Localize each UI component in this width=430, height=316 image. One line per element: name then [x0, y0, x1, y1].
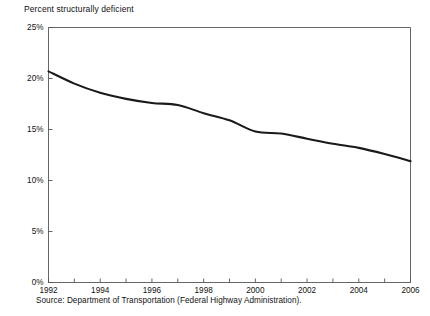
- axes: [49, 28, 411, 283]
- chart-title: Percent structurally deficient: [24, 4, 134, 14]
- y-axis-tick-label: 5%: [18, 227, 44, 236]
- x-axis-tick-label: 2006: [391, 286, 430, 295]
- y-axis-tick-label: 20%: [18, 74, 44, 83]
- data-series: [49, 71, 411, 161]
- x-axis-tick-label: 1998: [184, 286, 224, 295]
- chart-plot-area: [0, 0, 430, 316]
- chart-figure: Percent structurally deficient 25%20%15%…: [0, 0, 430, 316]
- x-axis-tick-label: 2004: [339, 286, 379, 295]
- series-line: [49, 71, 411, 161]
- y-axis-tick-label: 10%: [18, 176, 44, 185]
- x-axis-tick-label: 2000: [235, 286, 275, 295]
- tick-marks: [49, 28, 411, 283]
- source-note: Source: Department of Transportation (Fe…: [36, 296, 302, 305]
- x-axis-tick-label: 1992: [29, 286, 69, 295]
- y-axis-tick-label: 25%: [18, 23, 44, 32]
- x-axis-tick-label: 2002: [287, 286, 327, 295]
- y-axis-tick-label: 15%: [18, 125, 44, 134]
- x-axis-tick-label: 1994: [80, 286, 120, 295]
- x-axis-tick-label: 1996: [132, 286, 172, 295]
- axis-frame: [49, 28, 411, 283]
